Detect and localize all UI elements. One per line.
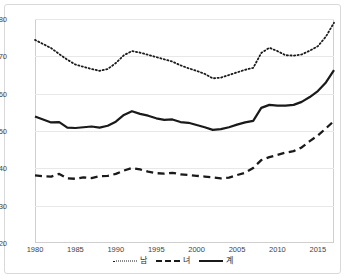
chart-legend: 남 녀 계 xyxy=(5,257,340,265)
x-tick-label: 2015 xyxy=(309,245,326,254)
legend-label-male: 남 xyxy=(140,257,147,265)
x-tick-label: 2000 xyxy=(188,245,205,254)
legend-label-total: 계 xyxy=(226,257,233,265)
series-line-녀 xyxy=(35,121,334,179)
x-tick-label: 1980 xyxy=(27,245,44,254)
y-tick-label: 70 xyxy=(0,52,7,61)
x-tick-label: 1985 xyxy=(67,245,84,254)
series-line-남 xyxy=(35,23,334,79)
legend-item-total[interactable]: 계 xyxy=(199,257,233,265)
y-tick-label: 80 xyxy=(0,15,7,24)
y-tick-label: 50 xyxy=(0,127,7,136)
y-tick-label: 20 xyxy=(0,239,7,248)
series-lines xyxy=(35,19,334,243)
x-tick-label: 2005 xyxy=(229,245,246,254)
y-tick-label: 30 xyxy=(0,201,7,210)
legend-key-solid-icon xyxy=(199,257,223,265)
x-tick-label: 2010 xyxy=(269,245,286,254)
y-tick-label: 40 xyxy=(0,164,7,173)
chart-figure: 20304050607080 1980198519901995200020052… xyxy=(4,4,341,274)
series-line-계 xyxy=(35,70,334,130)
x-tick-label: 1990 xyxy=(107,245,124,254)
legend-label-female: 녀 xyxy=(183,257,190,265)
legend-item-female[interactable]: 녀 xyxy=(156,257,190,265)
x-tick-label: 1995 xyxy=(148,245,165,254)
legend-key-dotted-icon xyxy=(113,257,137,265)
legend-item-male[interactable]: 남 xyxy=(113,257,147,265)
plot-area xyxy=(35,19,334,243)
y-tick-label: 60 xyxy=(0,89,7,98)
legend-key-dashed-icon xyxy=(156,257,180,265)
